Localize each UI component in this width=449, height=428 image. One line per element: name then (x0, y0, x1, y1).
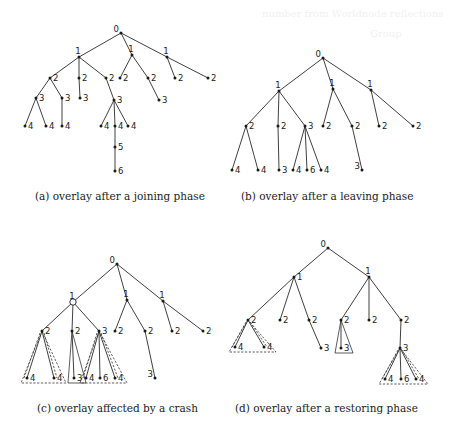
tree-node (292, 169, 295, 172)
node-level-label: 2 (382, 121, 387, 131)
tree-node (98, 330, 101, 333)
node-level-label: 2 (211, 73, 216, 83)
tree-node (245, 125, 248, 128)
tree-node (368, 319, 371, 322)
triangle-side-line (250, 322, 267, 347)
tree-node (114, 125, 117, 128)
node-level-label: 2 (312, 315, 317, 325)
tree-edge (127, 300, 145, 331)
tree-node (41, 330, 44, 333)
tree-node (26, 377, 29, 380)
tree-edge (293, 126, 305, 170)
node-level-label: 3 (282, 165, 287, 175)
tree-edge (86, 331, 99, 378)
node-level-label: 4 (65, 121, 70, 131)
node-level-label: 3 (39, 93, 44, 103)
tree-node (340, 347, 343, 350)
tree-edge (371, 90, 413, 126)
node-level-label: 2 (344, 315, 349, 325)
tree-node (351, 125, 354, 128)
tree-node (113, 99, 116, 102)
panel-d-restoring: 01122222244333464 (229, 239, 428, 384)
node-level-label: 2 (175, 326, 180, 336)
tree-edge (400, 348, 401, 379)
tree-edge (333, 89, 352, 126)
node-level-label: 6 (103, 373, 108, 383)
tree-edge (72, 302, 73, 331)
node-level-label: 4 (28, 121, 33, 131)
tree-node (257, 169, 260, 172)
node-level-label: 4 (388, 374, 393, 384)
node-level-label: 1 (69, 291, 74, 301)
tree-edge (278, 91, 279, 126)
node-level-label: 1 (128, 44, 133, 54)
tree-edge (305, 126, 321, 170)
tree-edge (278, 126, 279, 170)
node-level-label: 3 (162, 95, 167, 105)
node-level-label: 4 (267, 342, 272, 352)
tree-node (147, 77, 150, 80)
triangle-side-line (83, 333, 97, 378)
node-level-label: 2 (326, 121, 331, 131)
node-level-label: 4 (89, 373, 94, 383)
tree-node (207, 77, 210, 80)
node-level-label: 3 (148, 369, 153, 379)
node-level-label: 4 (104, 121, 109, 131)
panel-b-leaving: 011122322224434643 (231, 49, 422, 175)
node-level-label: 2 (123, 73, 128, 83)
node-level-label: 2 (372, 315, 377, 325)
tree-node (120, 32, 123, 35)
tree-node (327, 247, 330, 250)
tree-node (45, 125, 48, 128)
tree-edge (328, 248, 369, 277)
node-level-label: 2 (283, 315, 288, 325)
node-level-label: 2 (355, 121, 360, 131)
tree-edge (305, 126, 307, 170)
tree-node (384, 378, 387, 381)
node-level-label: 2 (416, 121, 421, 131)
node-level-label: 2 (206, 326, 211, 336)
tree-node (322, 57, 325, 60)
triangle-side-line (24, 333, 40, 378)
tree-node (293, 276, 296, 279)
node-level-label: 4 (296, 165, 301, 175)
tree-node (71, 330, 74, 333)
tree-node (278, 169, 281, 172)
tree-edge (73, 264, 117, 302)
node-level-label: 0 (321, 239, 326, 249)
caption-b: (b) overlay after a leaving phase (241, 190, 413, 202)
node-level-label: 1 (163, 46, 168, 56)
node-level-label: 4 (235, 165, 240, 175)
tree-node (234, 346, 237, 349)
tree-edge (279, 58, 323, 91)
tree-node (114, 170, 117, 173)
caption-d: (d) overlay after a restoring phase (235, 402, 418, 414)
node-level-label: 4 (131, 121, 136, 131)
node-level-label: 2 (75, 326, 80, 336)
node-level-label: 3 (344, 343, 349, 353)
node-level-label: 2 (82, 73, 87, 83)
tree-edge (369, 277, 401, 320)
tree-node (119, 77, 122, 80)
tree-node (24, 125, 27, 128)
node-level-label: 3 (83, 93, 88, 103)
node-level-label: 6 (404, 374, 409, 384)
tree-node (202, 330, 205, 333)
node-level-label: 6 (118, 166, 123, 176)
node-level-label: 3 (117, 95, 122, 105)
tree-node (304, 125, 307, 128)
tree-node (174, 77, 177, 80)
tree-node (158, 99, 161, 102)
tree-node (79, 97, 82, 100)
tree-node (320, 169, 323, 172)
tree-edge (99, 331, 115, 378)
node-level-label: 3 (77, 373, 82, 383)
tree-node (85, 377, 88, 380)
tree-edge (42, 331, 54, 378)
tree-edge (246, 126, 258, 170)
tree-node (78, 77, 81, 80)
caption-a: (a) overlay after a joining phase (35, 190, 205, 202)
node-level-label: 4 (57, 373, 62, 383)
node-level-label: 4 (261, 165, 266, 175)
overlay-figure: 011122222223333344444456 011122322224434… (0, 0, 449, 428)
